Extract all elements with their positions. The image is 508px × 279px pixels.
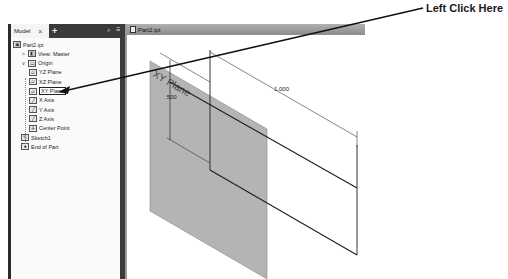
dimension-1000-value[interactable]: 1.000	[274, 86, 290, 92]
tree-guide-line	[25, 78, 27, 146]
close-icon[interactable]: ×	[38, 28, 42, 35]
tree-item-label: Z Axis	[39, 116, 54, 122]
viewport-canvas: XY Plane .500 1.000	[127, 35, 508, 279]
axis-icon: ╱	[29, 106, 37, 113]
tree-item-yz-plane[interactable]: ▱YZ Plane	[29, 68, 62, 77]
browser-tab-strip: + ⌕ ≡	[49, 24, 123, 38]
tree-item-xy-plane[interactable]: ▱XY Plane	[29, 87, 66, 96]
search-icon[interactable]: ⌕	[107, 26, 111, 34]
tree-item-label: Part2.ipt	[23, 42, 43, 48]
model-browser: Model × + ⌕ ≡ ▣Part2.ipt>◧View: Masterv▭…	[8, 24, 123, 279]
add-tab-icon[interactable]: +	[52, 26, 57, 36]
tree-item-z-axis[interactable]: ╱Z Axis	[29, 114, 54, 123]
tree-item-label: YZ Plane	[39, 69, 62, 75]
point-icon: ✛	[29, 125, 37, 132]
tree-item-y-axis[interactable]: ╱Y Axis	[29, 105, 54, 114]
tree-item-label: Center Point	[39, 125, 70, 131]
tab-model-label: Model	[14, 28, 30, 34]
plane-icon: ▱	[29, 78, 37, 85]
tree-item-label: View: Master	[38, 51, 70, 57]
tree-item-part2-ipt[interactable]: ▣Part2.ipt	[13, 40, 43, 49]
dimension-500-value[interactable]: .500	[165, 94, 177, 100]
browser-tab-bar: Model × + ⌕ ≡	[11, 24, 123, 38]
tree-item-origin[interactable]: v▭Origin	[21, 59, 53, 68]
axis-icon: ╱	[29, 115, 37, 122]
tree-item-view-master[interactable]: >◧View: Master	[21, 49, 70, 58]
tab-model[interactable]: Model ×	[11, 24, 49, 38]
tree-item-label: Y Axis	[39, 107, 54, 113]
document-tab[interactable]: Part2.ipt	[127, 24, 365, 35]
axis-icon: ╱	[29, 97, 37, 104]
tree-item-label: XZ Plane	[39, 79, 62, 85]
part-document-icon	[130, 26, 136, 33]
chevron-right-icon[interactable]: >	[21, 51, 26, 57]
chevron-down-icon[interactable]: v	[21, 60, 26, 66]
plane-icon: ▱	[29, 88, 37, 95]
tree-item-label: X Axis	[39, 97, 54, 103]
callout-label: Left Click Here	[426, 2, 503, 14]
tree-item-label: XY Plane	[39, 87, 66, 95]
view-icon: ◧	[28, 50, 36, 57]
tree-item-label: Origin	[38, 60, 53, 66]
part-icon: ▣	[13, 41, 21, 48]
folder-icon: ▭	[28, 60, 36, 67]
tree-item-label: End of Part	[31, 144, 59, 150]
plane-icon: ▱	[29, 69, 37, 76]
tree-item-x-axis[interactable]: ╱X Axis	[29, 96, 54, 105]
tree-item-label: Sketch1	[31, 135, 51, 141]
tree-item-xz-plane[interactable]: ▱XZ Plane	[29, 77, 62, 86]
graphics-viewport[interactable]: XY Plane .500 1.000	[127, 35, 508, 279]
document-tab-label: Part2.ipt	[138, 27, 160, 33]
tree-item-center-point[interactable]: ✛Center Point	[29, 124, 70, 133]
